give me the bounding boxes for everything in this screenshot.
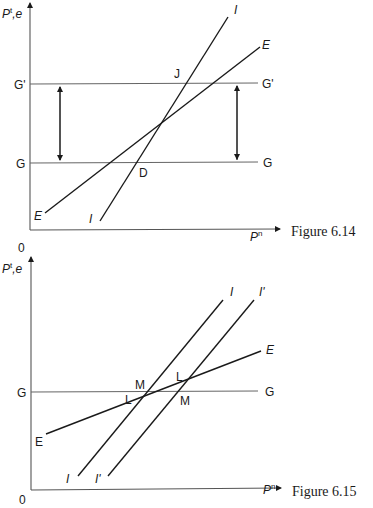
point-m-left-label: M	[135, 378, 145, 392]
x-axis-label: Pn	[263, 482, 275, 497]
point-l-left-label: L	[125, 393, 132, 407]
point-d-label: D	[139, 166, 148, 180]
x-axis-label: Pn	[250, 229, 262, 244]
i-prime-curve	[108, 300, 254, 476]
diagram-canvas: Pt,e 0 Pn G' G' G G I I E E J D Figure 6…	[0, 0, 373, 508]
point-m-right-label: M	[180, 394, 190, 408]
g-right-label: G	[265, 385, 274, 399]
point-j-label: J	[174, 67, 180, 81]
e-start-label: E	[35, 435, 43, 449]
e-curve	[45, 47, 260, 213]
e-end-label: E	[266, 343, 275, 357]
point-l-right-label: L	[176, 370, 183, 384]
i-curve	[78, 300, 223, 476]
figure-6-14: Pt,e 0 Pn G' G' G G I I E E J D Figure 6…	[2, 3, 356, 255]
g-prime-right-label: G'	[262, 77, 274, 91]
i-prime-end-label: I'	[259, 285, 265, 299]
i-end-label: I	[234, 3, 238, 17]
x-axis	[31, 488, 281, 490]
g-left-label: G	[17, 386, 26, 400]
i-start-label: I	[89, 212, 93, 226]
g-prime-line	[30, 83, 258, 84]
g-left-label: G	[16, 157, 25, 171]
i-curve	[100, 17, 228, 221]
i-end-label: I	[230, 285, 234, 299]
origin-label: 0	[18, 241, 25, 255]
e-start-label: E	[34, 209, 43, 223]
y-axis-label: Pt,e	[2, 6, 23, 21]
x-axis	[30, 229, 280, 230]
figure-caption: Figure 6.14	[291, 224, 356, 239]
origin-label: 0	[19, 493, 26, 507]
figure-caption: Figure 6.15	[292, 484, 357, 499]
g-line	[30, 162, 258, 163]
i-start-label: I	[66, 472, 70, 486]
g-right-label: G	[263, 156, 272, 170]
g-prime-left-label: G'	[14, 78, 26, 92]
figure-6-15: Pt,e 0 Pn G G E E I I I' I' M L L M Figu…	[2, 257, 357, 507]
y-axis-label: Pt,e	[2, 261, 23, 276]
i-prime-start-label: I'	[95, 472, 101, 486]
e-end-label: E	[262, 38, 271, 52]
